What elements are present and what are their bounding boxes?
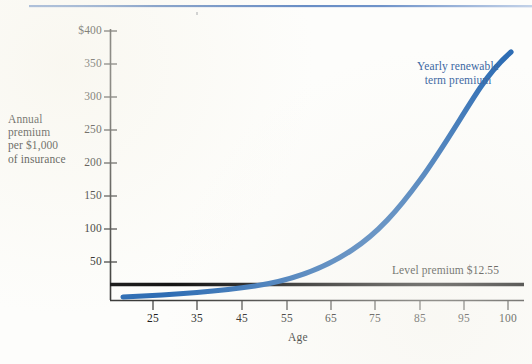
- curve-label-line-1: Yearly renewable: [396, 60, 520, 74]
- x-tick-label-75: 75: [360, 312, 390, 324]
- y-axis-title-line-3: per $1,000: [8, 139, 94, 152]
- y-tick-label-100: 100: [58, 223, 102, 234]
- y-tick-label-300: 300: [58, 91, 102, 102]
- x-tick-label-55: 55: [272, 312, 302, 324]
- y-axis-title-line-4: of insurance: [8, 153, 94, 166]
- level-premium-label: Level premium $12.55: [392, 264, 499, 276]
- x-tick-label-65: 65: [316, 312, 346, 324]
- y-tick-label-350: 350: [58, 58, 102, 69]
- y-tick-label-150: 150: [58, 190, 102, 201]
- x-axis-title: Age: [288, 331, 308, 343]
- x-tick-marks: [153, 300, 508, 310]
- x-tick-label-25: 25: [138, 312, 168, 324]
- chart-plot-svg: [0, 0, 532, 364]
- x-tick-label-100: 100: [493, 312, 523, 324]
- y-axis-title-line-1: Annual: [8, 113, 94, 126]
- y-tick-label-50: 50: [58, 256, 102, 267]
- curve-label-line-2: term premium: [396, 74, 520, 88]
- chart-page: $400 350 300 250 200 150 100 50 25 35 45…: [0, 0, 532, 364]
- y-axis-title: Annual premium per $1,000 of insurance: [8, 113, 94, 166]
- x-tick-label-45: 45: [227, 312, 257, 324]
- premium-comparison-chart: $400 350 300 250 200 150 100 50 25 35 45…: [0, 0, 532, 364]
- yearly-renewable-term-premium-curve: [123, 52, 511, 297]
- x-tick-label-35: 35: [182, 312, 212, 324]
- y-tick-label-400: $400: [58, 25, 102, 36]
- x-tick-label-95: 95: [449, 312, 479, 324]
- yearly-renewable-term-premium-label: Yearly renewable term premium: [396, 60, 520, 87]
- x-tick-label-85: 85: [405, 312, 435, 324]
- y-axis-title-line-2: premium: [8, 126, 94, 139]
